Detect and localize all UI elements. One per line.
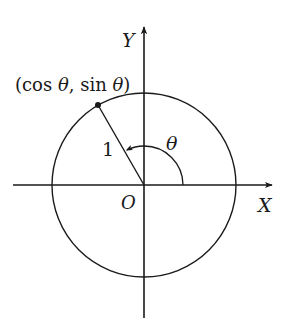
point-label-close: ) (123, 74, 130, 95)
angle-label: θ (166, 132, 178, 154)
point-label-theta-2: θ (113, 74, 124, 95)
x-axis-label: X (256, 194, 273, 216)
y-axis-label: Y (122, 29, 137, 51)
point-label: (cos θ, sin θ) (15, 74, 130, 95)
point-label-open: (cos (15, 74, 58, 95)
origin-label: O (121, 192, 136, 213)
point-marker (95, 102, 101, 108)
point-label-mid: , sin (69, 74, 113, 95)
point-label-theta-1: θ (58, 74, 69, 95)
unit-circle-diagram: Y X O 1 θ (cos θ, sin θ) (0, 0, 294, 336)
radius-label: 1 (102, 138, 114, 160)
